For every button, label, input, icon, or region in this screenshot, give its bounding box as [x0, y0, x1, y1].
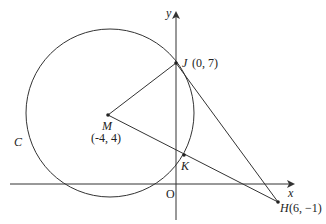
point-k-name: K [180, 159, 190, 173]
circle-c-label: C [14, 135, 23, 149]
x-axis-label: x [287, 186, 294, 200]
point-h-coords: (6, −1) [289, 201, 322, 215]
point-m-coords: (-4, 4) [91, 131, 121, 145]
y-axis-label: y [165, 6, 172, 20]
origin-label: O [166, 187, 175, 201]
point-j [174, 61, 178, 65]
point-m [106, 113, 110, 117]
point-j-name: J [182, 56, 188, 70]
point-k [182, 153, 186, 157]
geometry-diagram: y x O J (0, 7) M (-4, 4) C K H (6, −1) [0, 0, 326, 224]
segment-mj [108, 63, 176, 115]
point-j-coords: (0, 7) [192, 56, 218, 70]
